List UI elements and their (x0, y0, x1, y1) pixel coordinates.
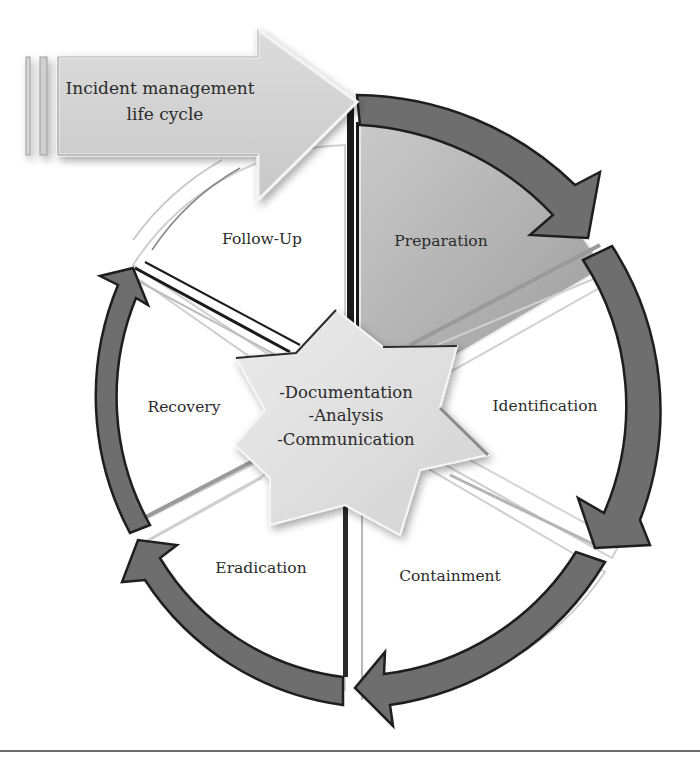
bottom-rule (0, 750, 700, 752)
center-line-documentation: -Documentation (279, 383, 413, 402)
incident-lifecycle-diagram: Incident management life cycle -Document… (0, 0, 700, 766)
label-recovery: Recovery (148, 398, 221, 416)
center-line-communication: -Communication (277, 430, 415, 449)
title-line-1: Incident management (66, 78, 255, 98)
title-line-2: life cycle (127, 104, 204, 124)
label-eradication: Eradication (215, 559, 306, 577)
label-preparation: Preparation (394, 232, 487, 250)
label-containment: Containment (399, 567, 501, 585)
center-line-analysis: -Analysis (309, 406, 384, 425)
label-follow-up: Follow-Up (222, 230, 302, 248)
label-identification: Identification (492, 397, 597, 415)
